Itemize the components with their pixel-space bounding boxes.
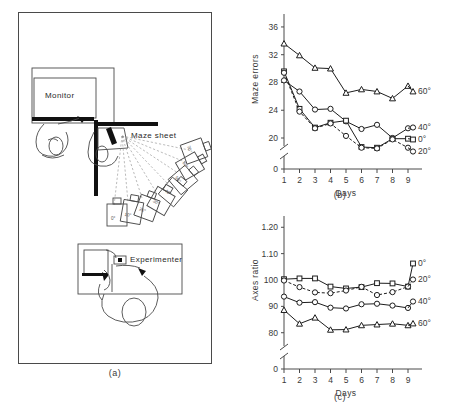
maze-errors-line-chart: 02024283236123456789DaysMaze errors60°40… <box>232 6 448 206</box>
axes-ratio-line-chart: 080901001.101.20123456789DaysAxes ratio0… <box>232 208 448 406</box>
experimenter-hand-right <box>138 268 146 276</box>
series-marker-20deg-5 <box>343 133 348 138</box>
subject-detail-1 <box>48 139 58 141</box>
x-tick-label-5: 6 <box>359 375 364 385</box>
monitor-label: Monitor <box>45 91 74 100</box>
y-tick-label-3: 100 <box>264 275 278 285</box>
subject-head <box>36 124 68 156</box>
x-tick-label-2: 3 <box>313 375 318 385</box>
legend-label-60deg: 60° <box>418 318 431 328</box>
figure-root: Monitor Maze sheet <box>0 0 452 410</box>
series-marker-40deg-4 <box>328 106 333 111</box>
x-tick-label-0: 1 <box>282 175 287 185</box>
x-tick-label-7: 8 <box>390 175 395 185</box>
panel-b-caption: (b) <box>232 190 448 200</box>
angle-card-1-label: 10° <box>124 212 132 218</box>
legend-label-40deg: 40° <box>418 296 431 306</box>
series-marker-40deg-2 <box>297 300 302 305</box>
x-tick-label-4: 5 <box>344 375 349 385</box>
series-marker-0deg-4 <box>328 284 333 289</box>
y-tick-label-5: 36 <box>269 22 279 32</box>
series-marker-40deg-5 <box>343 306 348 311</box>
series-marker-20deg-8 <box>390 290 395 295</box>
series-marker-20deg-1 <box>281 278 286 283</box>
series-marker-40deg-6 <box>359 126 364 131</box>
x-tick-label-6: 7 <box>375 175 380 185</box>
x-tick-label-8: 9 <box>406 375 411 385</box>
y-tick-label-5: 1.20 <box>261 222 278 232</box>
y-tick-label-4: 32 <box>269 50 279 60</box>
panel-b-maze-errors-chart: 02024283236123456789DaysMaze errors60°40… <box>232 6 448 206</box>
legend-marker-0deg <box>411 137 416 142</box>
legend-marker-0deg <box>411 261 416 266</box>
legend-label-20deg: 20° <box>418 146 431 156</box>
legend-label-20deg: 20° <box>418 274 431 284</box>
series-marker-0deg-5 <box>344 118 349 123</box>
legend-label-60deg: 60° <box>418 86 431 96</box>
series-marker-60deg-1 <box>281 41 287 46</box>
x-tick-label-2: 3 <box>313 175 318 185</box>
series-marker-0deg-2 <box>297 276 302 281</box>
series-marker-40deg-7 <box>374 301 379 306</box>
maze-sheet-label: Maze sheet <box>131 131 177 140</box>
y-tick-label-3: 28 <box>269 77 279 87</box>
ray-0deg <box>114 136 122 206</box>
series-marker-40deg-6 <box>359 302 364 307</box>
legend-marker-60deg <box>410 321 416 326</box>
series-marker-20deg-8 <box>390 137 395 142</box>
panel-c-caption: (c) <box>232 392 448 402</box>
x-tick-label-3: 4 <box>328 375 333 385</box>
y-tick-label-2: 90 <box>269 301 279 311</box>
y-tick-label-2: 24 <box>269 105 279 115</box>
angle-card-3-label: 30° <box>152 198 161 206</box>
experimenter-label: Experimenter <box>130 255 182 264</box>
experimenter-box <box>78 244 182 294</box>
y-tick-label-4: 1.10 <box>261 249 278 259</box>
series-marker-60deg-1 <box>281 307 287 312</box>
series-marker-20deg-4 <box>328 121 333 126</box>
series-marker-40deg-7 <box>374 122 379 127</box>
series-marker-20deg-5 <box>343 288 348 293</box>
experimenter-device-button <box>118 258 122 262</box>
series-marker-20deg-3 <box>312 290 317 295</box>
series-marker-60deg-6 <box>359 86 365 91</box>
y-tick-label-1: 80 <box>269 328 279 338</box>
series-marker-0deg-7 <box>375 281 380 286</box>
series-marker-20deg-4 <box>328 291 333 296</box>
experimenter-arm-right <box>116 265 140 268</box>
legend-label-40deg: 40° <box>418 122 431 132</box>
x-tick-label-4: 5 <box>344 175 349 185</box>
series-marker-40deg-3 <box>312 107 317 112</box>
x-tick-label-8: 9 <box>406 175 411 185</box>
x-tick-label-0: 1 <box>282 375 287 385</box>
series-marker-40deg-2 <box>297 89 302 94</box>
series-marker-0deg-3 <box>313 276 318 281</box>
x-tick-label-1: 2 <box>297 375 302 385</box>
series-marker-20deg-2 <box>297 285 302 290</box>
x-tick-label-1: 2 <box>297 175 302 185</box>
angle-card-2-label: 20° <box>138 207 146 214</box>
series-marker-20deg-6 <box>359 284 364 289</box>
series-marker-60deg-3 <box>312 315 318 320</box>
legend-leader-0deg <box>408 264 413 287</box>
series-marker-20deg-2 <box>297 109 302 114</box>
series-marker-20deg-6 <box>359 145 364 150</box>
y-axis-title: Maze errors <box>250 54 260 104</box>
angle-card-group: 0° 10° 20° 30° <box>107 136 212 226</box>
legend-marker-20deg <box>410 149 415 154</box>
experimenter-cable-1 <box>106 250 116 258</box>
series-marker-20deg-1 <box>281 70 286 75</box>
experimenter-shoulder <box>98 284 102 300</box>
panel-c-axes-ratio-chart: 080901001.101.20123456789DaysAxes ratio0… <box>232 208 448 406</box>
y-tick-label-1: 20 <box>269 133 279 143</box>
panel-a-apparatus-diagram: Monitor Maze sheet <box>18 12 212 364</box>
series-marker-0deg-8 <box>390 281 395 286</box>
angle-card-7-label: 70° <box>186 145 193 153</box>
x-tick-label-5: 6 <box>359 175 364 185</box>
legend-label-0deg: 0° <box>418 258 426 268</box>
legend-label-0deg: 0° <box>418 134 426 144</box>
series-marker-20deg-7 <box>374 292 379 297</box>
y-tick-label-0: 0 <box>273 164 278 174</box>
maze-sheet-pen <box>106 127 117 145</box>
series-marker-40deg-3 <box>312 300 317 305</box>
